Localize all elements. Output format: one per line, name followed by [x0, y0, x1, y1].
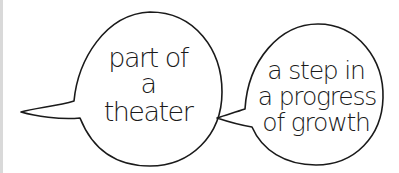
speech-bubbles-illustration: part of a theater a step in a progress o…	[0, 0, 399, 173]
left-speech-bubble: part of a theater	[21, 12, 222, 166]
left-bubble-line-3: theater	[104, 96, 195, 127]
right-bubble-line-1: a step in	[267, 56, 364, 85]
left-bubble-line-2: a	[140, 68, 155, 99]
right-speech-bubble: a step in a progress of growth	[217, 24, 383, 165]
left-bubble-outline	[21, 12, 222, 166]
right-bubble-line-3: of growth	[262, 108, 369, 137]
right-bubble-line-2: a progress	[258, 82, 376, 111]
